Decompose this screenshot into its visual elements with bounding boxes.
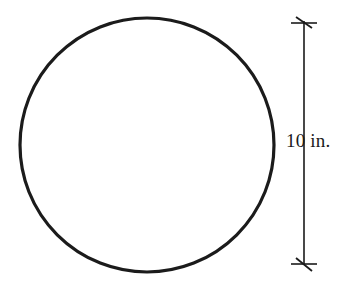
figure-canvas: 10 in. <box>0 0 345 286</box>
dimension-label: 10 in. <box>286 130 330 152</box>
circle-shape <box>20 18 274 272</box>
